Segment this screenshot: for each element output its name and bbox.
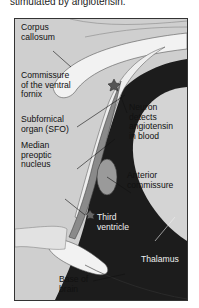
label-third-ventricle: Third ventricle [97, 213, 129, 232]
label-subfornical-organ: Subfornical organ (SFO) [21, 115, 69, 134]
label-median-preoptic-nucleus: Median preoptic nucleus [21, 141, 52, 170]
label-thalamus: Thalamus [141, 255, 179, 265]
label-neuron: Neuron detects angiotensin in blood [129, 103, 173, 141]
label-base-of-brain: Base of brain [59, 275, 88, 294]
figure-caption: stimulated by angiotensin. [10, 0, 126, 7]
label-corpus-callosum: Corpus callosum [21, 23, 55, 42]
label-commissure-ventral-fornix: Commissure of the ventral fornix [21, 71, 71, 100]
brain-diagram: Corpus callosum Commissure of the ventra… [14, 18, 188, 301]
label-anterior-commissure: Anterior commissure [127, 171, 173, 190]
